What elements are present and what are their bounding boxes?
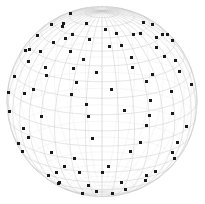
point-marker [62, 22, 65, 25]
point-marker [27, 60, 30, 63]
graticule-line [102, 11, 197, 101]
point-marker [171, 112, 174, 115]
point-marker [120, 181, 123, 184]
point-marker [130, 56, 133, 59]
point-marker [24, 49, 27, 52]
graticule-line [55, 11, 103, 195]
point-marker [145, 174, 148, 177]
point-marker [13, 75, 16, 78]
point-marker [178, 70, 181, 73]
point-marker [151, 23, 154, 26]
point-marker [70, 93, 73, 96]
graticule-line [20, 121, 130, 152]
point-marker [17, 142, 20, 145]
point-marker [190, 83, 193, 86]
graticule-line [13, 28, 102, 192]
point-marker [55, 171, 58, 174]
point-marker [50, 151, 53, 154]
point-marker [69, 50, 72, 53]
point-marker [111, 192, 114, 195]
graticule-line [134, 74, 197, 101]
graticule-line [13, 105, 133, 136]
graticule-line [41, 11, 102, 193]
graticule-line [86, 11, 103, 196]
point-marker [163, 55, 166, 58]
point-marker [142, 21, 145, 24]
graticule-line [102, 11, 183, 52]
point-marker [161, 33, 164, 36]
point-marker [110, 88, 113, 91]
point-marker [115, 32, 118, 35]
point-marker [64, 37, 67, 40]
graticule-line [102, 11, 119, 196]
point-marker [39, 50, 42, 53]
point-marker [149, 99, 152, 102]
point-marker [120, 44, 123, 47]
point-marker [185, 125, 188, 128]
graticule-line [102, 11, 134, 196]
point-marker [151, 73, 154, 76]
graticule-line [123, 153, 163, 177]
graticule-line [7, 72, 134, 102]
point-marker [72, 67, 75, 70]
graticule-line [134, 90, 196, 118]
point-marker [71, 33, 74, 36]
globe-figure [0, 0, 205, 204]
point-marker [148, 114, 151, 117]
point-marker [87, 115, 90, 118]
point-marker [82, 58, 85, 61]
point-marker [44, 66, 47, 69]
point-marker [73, 157, 76, 160]
point-marker [123, 109, 126, 112]
point-marker [104, 28, 107, 31]
point-marker [95, 190, 98, 193]
point-marker [173, 157, 176, 160]
point-marker [171, 151, 174, 154]
point-marker [95, 71, 98, 74]
point-marker [131, 66, 134, 69]
point-marker [101, 171, 104, 174]
point-marker [108, 45, 111, 48]
point-marker [176, 141, 179, 144]
point-marker [7, 91, 10, 94]
point-marker [50, 23, 53, 26]
point-marker [69, 12, 72, 15]
point-marker [144, 179, 147, 182]
graticule-line [102, 8, 150, 192]
point-marker [81, 192, 84, 195]
point-marker [36, 34, 39, 37]
point-marker [63, 165, 66, 168]
point-marker [78, 171, 81, 174]
point-marker [85, 103, 88, 106]
point-marker [154, 170, 157, 173]
point-marker [145, 80, 148, 83]
point-marker [155, 46, 158, 49]
point-marker [107, 165, 110, 168]
point-marker [75, 81, 78, 84]
point-marker [166, 33, 169, 36]
point-marker [174, 59, 177, 62]
point-marker [171, 39, 174, 42]
point-marker [21, 150, 24, 153]
point-marker [28, 48, 31, 51]
point-marker [91, 137, 94, 140]
graticule-line [70, 7, 102, 192]
point-marker [32, 88, 35, 91]
point-marker [139, 141, 142, 144]
point-marker [155, 36, 158, 39]
point-marker [23, 92, 26, 95]
point-marker [87, 184, 90, 187]
point-marker [124, 188, 127, 191]
point-marker [85, 22, 88, 25]
point-marker [170, 90, 173, 93]
graticule-line [86, 7, 103, 192]
point-marker [45, 74, 48, 77]
graticule-line [21, 11, 102, 52]
point-marker [139, 32, 142, 35]
graticule-line [102, 28, 191, 192]
globe-scatter-plot [0, 0, 205, 204]
point-marker [40, 115, 43, 118]
point-marker [22, 127, 25, 130]
point-marker [132, 33, 135, 36]
graticule-line [55, 8, 103, 192]
